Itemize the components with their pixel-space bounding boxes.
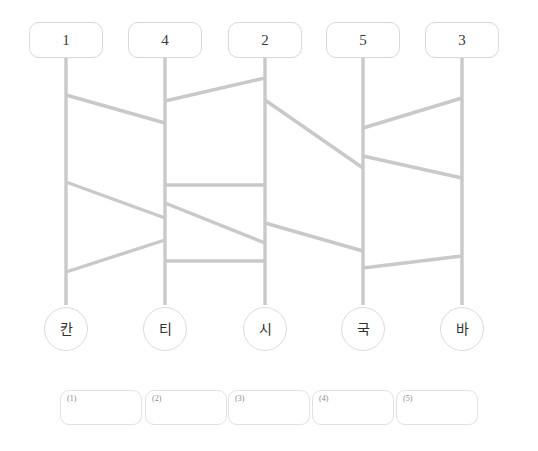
ladder-rung-6 [66,182,165,218]
answer-index-1: (1) [67,394,76,404]
answer-index-4: (4) [319,394,328,404]
ladder-rung-8 [165,203,265,243]
ladder-rails [66,58,462,305]
top-label-box-3[interactable]: 2 [228,22,302,58]
answer-box-1[interactable]: (1) [60,390,142,425]
ladder-puzzle-canvas: 14253 칸티시국바 (1)(2)(3)(4)(5) [0,0,538,451]
answer-index-5: (5) [403,394,412,404]
ladder-rung-2 [165,78,265,101]
ladder-rung-10 [66,240,165,272]
bottom-label-text-1: 칸 [45,322,87,336]
ladder-rung-5 [363,156,462,178]
top-label-text-2: 4 [129,33,201,48]
top-label-box-5[interactable]: 3 [425,22,499,58]
top-label-box-2[interactable]: 4 [128,22,202,58]
answer-box-5[interactable]: (5) [396,390,478,425]
top-label-text-1: 1 [30,33,102,48]
bottom-label-text-4: 국 [342,322,384,336]
ladder-graph [0,0,538,451]
bottom-label-circle-2[interactable]: 티 [143,307,187,351]
ladder-rung-4 [363,98,462,128]
bottom-label-circle-4[interactable]: 국 [341,307,385,351]
top-label-box-4[interactable]: 5 [326,22,400,58]
ladder-rung-12 [363,256,462,268]
answer-index-2: (2) [152,394,161,404]
bottom-label-text-2: 티 [144,322,186,336]
top-label-text-5: 3 [426,33,498,48]
ladder-rung-9 [265,223,363,251]
bottom-label-text-5: 바 [441,322,483,336]
answer-box-3[interactable]: (3) [228,390,310,425]
answer-box-4[interactable]: (4) [312,390,394,425]
answer-index-3: (3) [235,394,244,404]
ladder-rung-1 [66,95,165,123]
bottom-label-circle-5[interactable]: 바 [440,307,484,351]
top-label-text-4: 5 [327,33,399,48]
ladder-rung-3 [265,100,363,168]
bottom-label-circle-3[interactable]: 시 [243,307,287,351]
top-label-text-3: 2 [229,33,301,48]
top-label-box-1[interactable]: 1 [29,22,103,58]
answer-box-2[interactable]: (2) [145,390,227,425]
bottom-label-text-3: 시 [244,322,286,336]
bottom-label-circle-1[interactable]: 칸 [44,307,88,351]
